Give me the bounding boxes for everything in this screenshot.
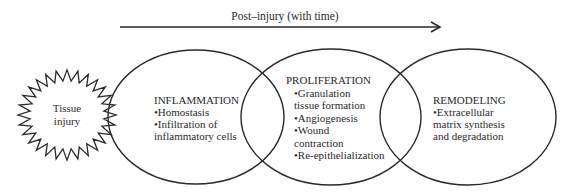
phase-line: matrix synthesis [433, 118, 505, 130]
proliferation-phase: PROLIFERATION •Granulation tissue format… [286, 74, 385, 161]
phase-title: PROLIFERATION [286, 74, 371, 86]
phase-line: •Re-epithelialization [294, 149, 385, 161]
phase-line: and degradation [433, 130, 504, 142]
phase-line: •Granulation [294, 87, 351, 99]
phase-line: tissue formation [294, 99, 366, 111]
injury-label-line1: Tissue [53, 102, 81, 114]
phase-line: •Homostasis [154, 106, 209, 118]
inflammation-phase: INFLAMMATION •Homostasis •Infiltration o… [154, 94, 239, 142]
timeline-arrow [120, 22, 440, 32]
phase-line: •Wound [294, 124, 330, 136]
remodeling-phase: REMODELING •Extracellular matrix synthes… [433, 94, 506, 142]
wound-healing-diagram: Post–injury (with time) Tissue injury IN… [0, 0, 569, 195]
phase-line: •Infiltration of [154, 118, 218, 130]
phase-line: inflammatory cells [154, 130, 237, 142]
phase-title: INFLAMMATION [154, 94, 239, 106]
injury-label-line2: injury [54, 115, 81, 127]
phase-line: •Extracellular [433, 106, 494, 118]
phase-line: contraction [294, 137, 344, 149]
timeline-label: Post–injury (with time) [231, 10, 339, 23]
phase-title: REMODELING [433, 94, 506, 106]
phase-line: •Angiogenesis [294, 112, 358, 124]
